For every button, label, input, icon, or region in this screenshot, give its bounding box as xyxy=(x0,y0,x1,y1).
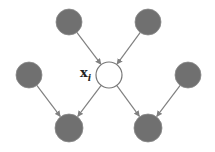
node-child-1 xyxy=(55,114,83,142)
edge-coparent-1-to-child-1 xyxy=(37,85,60,116)
label-main: x xyxy=(80,65,88,80)
node-parent-1 xyxy=(56,9,82,35)
edge-target-to-child-2 xyxy=(117,85,140,116)
edge-target-to-child-1 xyxy=(78,85,101,116)
edge-coparent-2-to-child-2 xyxy=(157,85,180,116)
node-coparent-2 xyxy=(175,62,201,88)
node-target xyxy=(96,62,122,88)
edge-parent-1-to-target xyxy=(77,32,101,64)
node-parent-2 xyxy=(135,9,161,35)
nodes xyxy=(16,9,201,142)
label-subscript: i xyxy=(88,73,91,83)
markov-blanket-diagram xyxy=(0,0,215,152)
node-child-2 xyxy=(134,114,162,142)
edge-parent-2-to-target xyxy=(117,32,140,64)
target-node-label: xi xyxy=(80,66,91,83)
node-coparent-1 xyxy=(16,62,42,88)
